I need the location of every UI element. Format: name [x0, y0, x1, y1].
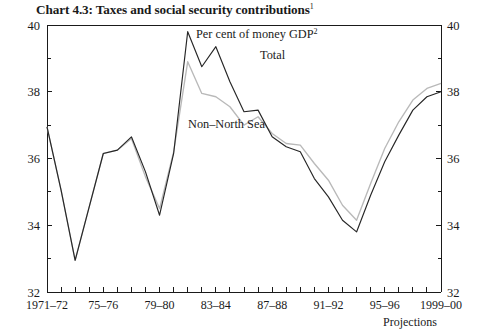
series-line-non-north-sea	[47, 62, 441, 261]
y-axis-labels-left: 4038363432	[28, 19, 41, 300]
x-axis-tick-label: 95–96	[370, 298, 400, 312]
chart-page: Chart 4.3: Taxes and social security con…	[0, 0, 488, 335]
x-axis-tick-label: 1971–72	[26, 298, 68, 312]
y-axis-labels-right: 4038363432	[447, 19, 460, 300]
x-axis-ticks	[47, 287, 441, 293]
x-axis-tick-label: 91–92	[313, 298, 343, 312]
series-line-total	[47, 32, 441, 261]
y-axis-tick-label: 36	[447, 152, 460, 166]
x-axis-tick-label: 83–84	[201, 298, 231, 312]
y-axis-tick-label: 34	[28, 219, 41, 233]
y-axis-tick-label: 40	[28, 19, 41, 33]
series-label-non-north-sea: Non–North Sea	[188, 117, 265, 131]
x-axis-labels: 1971–7275–7679–8083–8487–8891–9295–96199…	[26, 298, 462, 312]
x-axis-tick-label: 79–80	[145, 298, 175, 312]
series-label-total: Total	[260, 48, 286, 62]
plot-frame	[47, 25, 441, 292]
chart-plot-area: 4038363432 4038363432 1971–7275–7679–808…	[0, 0, 488, 335]
y-axis-tick-label: 38	[447, 85, 460, 99]
projections-label: Projections	[383, 315, 437, 329]
y-axis-tick-label: 38	[28, 85, 41, 99]
x-axis-tick-label: 75–76	[88, 298, 118, 312]
x-axis-tick-label: 87–88	[257, 298, 287, 312]
y-axis-tick-label: 40	[447, 19, 460, 33]
x-axis-tick-label: 1999–00	[420, 298, 462, 312]
y-axis-tick-label: 34	[447, 219, 460, 233]
units-annotation: Per cent of money GDP2	[196, 27, 317, 41]
y-axis-ticks	[47, 58, 441, 258]
y-axis-tick-label: 36	[28, 152, 41, 166]
